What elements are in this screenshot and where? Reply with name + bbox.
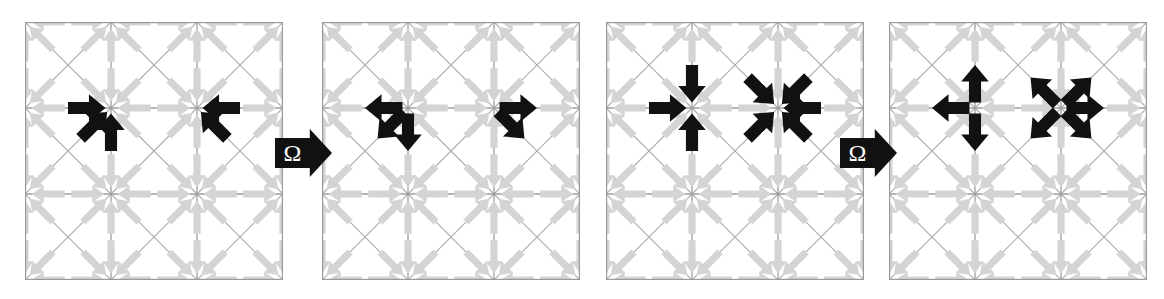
ghost-arrow [967, 29, 984, 62]
ghost-arrow [684, 201, 701, 234]
ghost-arrow [1053, 154, 1070, 187]
ghost-arrow [896, 186, 929, 203]
ghost-arrow [684, 154, 701, 187]
ghost-arrow [896, 100, 929, 117]
ghost-arrow [770, 154, 787, 187]
lattice-svg [25, 22, 283, 280]
ghost-arrow [1053, 201, 1070, 234]
ghost-arrow [982, 186, 1015, 203]
ghost-arrow [189, 68, 206, 101]
ghost-arrow [1107, 100, 1140, 117]
ghost-arrow [329, 186, 362, 203]
lattice-svg [606, 22, 864, 280]
ghost-arrow [982, 100, 1015, 117]
ghost-arrow [189, 154, 206, 187]
ghost-arrow [501, 186, 534, 203]
ghost-arrow [103, 240, 120, 273]
ghost-arrow [967, 240, 984, 273]
ghost-arrow [540, 100, 573, 117]
figure-canvas: ΩΩ [0, 0, 1164, 299]
grid-diagonals [25, 22, 283, 280]
ghost-arrow [1021, 186, 1054, 203]
ghost-arrow [684, 29, 701, 62]
operator-svg: Ω [840, 127, 898, 179]
ghost-arrow [613, 186, 646, 203]
ghost-arrow [1053, 29, 1070, 62]
ghost-arrow [400, 29, 417, 62]
grid-diagonals [322, 22, 580, 280]
ghost-arrow [935, 186, 968, 203]
ghost-arrow [32, 186, 65, 203]
ghost-arrow [967, 154, 984, 187]
ghost-arrow [243, 100, 276, 117]
ghost-arrow [103, 68, 120, 101]
ghost-arrow [486, 201, 503, 234]
operator-symbol-label: Ω [283, 140, 301, 166]
ghost-arrow [204, 186, 237, 203]
ghost-arrow [157, 100, 190, 117]
ghost-arrow [415, 186, 448, 203]
ghost-arrow [368, 186, 401, 203]
ghost-arrow [540, 186, 573, 203]
ghost-arrow [400, 201, 417, 234]
ghost-arrow [652, 186, 685, 203]
lattice-panel-2 [322, 22, 580, 280]
ghost-arrow [486, 29, 503, 62]
operator-arrow-operator-1: Ω [275, 127, 333, 179]
ghost-arrow [189, 201, 206, 234]
ghost-arrow [454, 186, 487, 203]
ghost-arrow [699, 186, 732, 203]
lattice-svg [889, 22, 1147, 280]
ghost-arrow [1053, 240, 1070, 273]
ghost-arrow [1107, 186, 1140, 203]
ghost-arrow [71, 186, 104, 203]
ghost-arrow [118, 100, 151, 117]
ghost-arrow [824, 100, 857, 117]
ghost-arrow [684, 240, 701, 273]
ghost-arrow [329, 100, 362, 117]
ghost-arrow [738, 186, 771, 203]
ghost-arrow [613, 100, 646, 117]
operator-svg: Ω [275, 127, 333, 179]
ghost-arrow [189, 240, 206, 273]
lattice-panel-1 [25, 22, 283, 280]
ghost-arrow [32, 100, 65, 117]
ghost-arrow [415, 100, 448, 117]
ghost-arrow [103, 201, 120, 234]
ghost-arrow [699, 100, 732, 117]
ghost-arrow [824, 186, 857, 203]
ghost-arrow [243, 186, 276, 203]
ghost-arrow [486, 240, 503, 273]
ghost-arrow [967, 201, 984, 234]
ghost-arrow [103, 154, 120, 187]
lattice-panel-4 [889, 22, 1147, 280]
ghost-arrow [400, 68, 417, 101]
ghost-arrow [454, 100, 487, 117]
lattice-panel-3 [606, 22, 864, 280]
ghost-arrow [157, 186, 190, 203]
ghost-arrow [770, 29, 787, 62]
grid-diagonals [889, 22, 1147, 280]
operator-symbol-label: Ω [848, 140, 866, 166]
ghost-arrow [486, 154, 503, 187]
ghost-arrow [770, 240, 787, 273]
ghost-arrow [486, 68, 503, 101]
ghost-arrow [785, 186, 818, 203]
grid-diagonals [606, 22, 864, 280]
ghost-arrow [770, 201, 787, 234]
ghost-arrow [1068, 186, 1101, 203]
ghost-arrow [103, 29, 120, 62]
ghost-arrow [400, 240, 417, 273]
ghost-arrow [189, 29, 206, 62]
lattice-svg [322, 22, 580, 280]
ghost-arrow [118, 186, 151, 203]
operator-arrow-operator-2: Ω [840, 127, 898, 179]
ghost-arrow [400, 154, 417, 187]
